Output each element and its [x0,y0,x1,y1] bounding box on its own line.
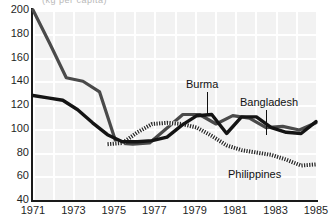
annotation-philippines: Philippines [228,168,281,180]
annotation-burma: Burma [186,78,218,90]
leader-line-burma [207,92,208,114]
annotation-bangladesh: Bangladesh [240,96,298,108]
leader-line-bangladesh [266,110,267,135]
